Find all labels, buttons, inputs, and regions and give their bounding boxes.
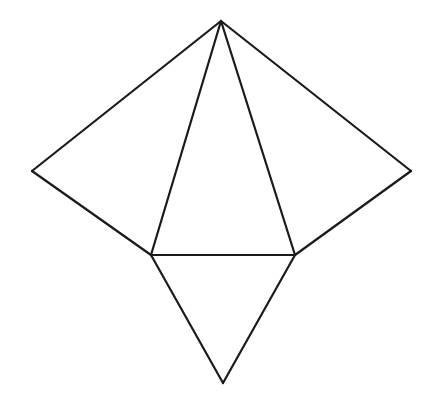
diagram-canvas (0, 0, 441, 420)
edge-apex-left (32, 21, 221, 171)
edge-base_left-bottom (151, 255, 223, 383)
pyramid-net-diagram (0, 0, 441, 420)
edge-left-base_left (32, 171, 151, 255)
edge-base_right-bottom (223, 255, 295, 383)
edge-apex-base_left (151, 21, 221, 255)
edge-right-base_right (295, 171, 411, 255)
edge-apex-right (221, 21, 411, 171)
edge-apex-base_right (221, 21, 295, 255)
